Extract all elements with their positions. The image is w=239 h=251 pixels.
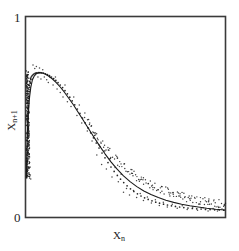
scatter-point-tail [219,207,220,208]
x-axis-title: Xn [113,230,125,243]
scatter-point-tail [161,191,162,192]
scatter-point-noise [207,210,209,212]
scatter-point [95,142,97,144]
scatter-point-tail [199,203,200,204]
scatter-point-edge-cluster [29,177,30,178]
scatter-point-edge-cluster [26,78,27,79]
scatter-point-noise [98,144,100,146]
scatter-point-tail [143,177,144,178]
scatter-point-tail [136,176,137,177]
scatter-point [155,201,157,203]
scatter-point [137,193,139,195]
scatter-point-noise [87,130,89,132]
scatter-point-tail [200,197,201,198]
scatter-point-tail [196,202,197,203]
scatter-point-tail [216,206,217,207]
scatter-point-edge-cluster [26,105,27,106]
scatter-point [171,205,173,207]
scatter-point-tail [116,156,117,157]
scatter-point [140,195,142,197]
scatter-point-tail [168,192,169,193]
scatter-point [69,96,71,98]
scatter-point-noise [30,82,32,84]
scatter-point [76,108,78,110]
scatter-point-tail [152,187,153,188]
scatter-point [29,86,31,88]
scatter-point-edge-cluster [28,126,29,127]
scatter-point-tail [93,132,94,133]
scatter-point-noise [123,191,125,193]
scatter-point-tail [204,204,205,205]
scatter-point [29,91,31,93]
scatter-point-noise [39,67,41,69]
scatter-point-tail [221,203,222,204]
scatter-point-noise [73,96,75,98]
plot-frame-rect [26,17,226,218]
scatter-point-tail [194,198,195,199]
scatter-point-edge-cluster [26,119,27,120]
scatter-point-tail [102,140,103,141]
scatter-point-edge-cluster [26,114,27,115]
scatter-point-tail [191,195,192,196]
scatter-point-tail [121,166,122,167]
scatter-point-tail [180,197,181,198]
scatter-point-edge-cluster [28,124,29,125]
scatter-point-edge-cluster [29,140,30,141]
scatter-point-noise [163,201,165,203]
scatter-point-edge-cluster [29,147,30,148]
scatter-point [82,117,84,119]
scatter-point-tail [209,204,210,205]
scatter-point-noise [89,122,91,124]
scatter-point-edge-cluster [26,101,27,102]
scatter-point-edge-cluster [27,124,28,125]
scatter-point-noise [46,79,48,81]
scatter-point [196,208,198,210]
scatter-point-noise [67,101,69,103]
scatter-point-noise [91,140,93,142]
scatter-point-tail [169,195,170,196]
scatter-point-tail [189,198,190,199]
scatter-point-edge-cluster [27,111,28,112]
scatter-point-edge-cluster [28,71,29,72]
scatter-point-noise [120,173,122,175]
scatter-point-tail [158,189,159,190]
scatter-point-edge-cluster [27,151,28,152]
scatter-point [36,72,38,74]
scatter-point-tail [97,138,98,139]
scatter-point-tail [88,128,89,129]
scatter-point-noise [217,210,219,212]
scatter-point-noise [202,207,204,209]
scatter-point-edge-cluster [28,87,29,88]
scatter-point-tail [95,132,96,133]
scatter-point-noise [49,76,51,78]
scatter-point-tail [192,202,193,203]
scatter-point [218,209,220,211]
scatter-point-tail [127,171,128,172]
scatter-point-noise [30,178,32,180]
scatter-point [64,90,66,92]
x-axis-title-subscript: n [121,234,125,243]
scatter-point-tail [225,203,226,204]
scatter-point-edge-cluster [27,160,28,161]
scatter-point-noise [151,202,153,204]
scatter-point-tail [145,182,146,183]
scatter-point-tail [119,166,120,167]
y-axis-title-base: X [5,123,17,131]
scatter-point-noise [192,206,194,208]
scatter-point [159,202,161,204]
scatter-point-noise [212,208,214,210]
scatter-point-edge-cluster [27,90,28,91]
scatter-point [98,147,100,149]
scatter-point-tail [150,180,151,181]
scatter-point-tail [138,179,139,180]
scatter-point-edge-cluster [27,157,28,158]
scatter-point-edge-cluster [27,74,28,75]
scatter-point [163,203,165,205]
scatter-point-edge-cluster [29,176,30,177]
scatter-point-noise [114,167,116,169]
scatter-point [183,207,185,209]
scatter-point-tail [169,193,170,194]
scatter-point-edge-cluster [26,133,27,134]
scatter-point [28,89,30,91]
scatter-point-tail [207,204,208,205]
